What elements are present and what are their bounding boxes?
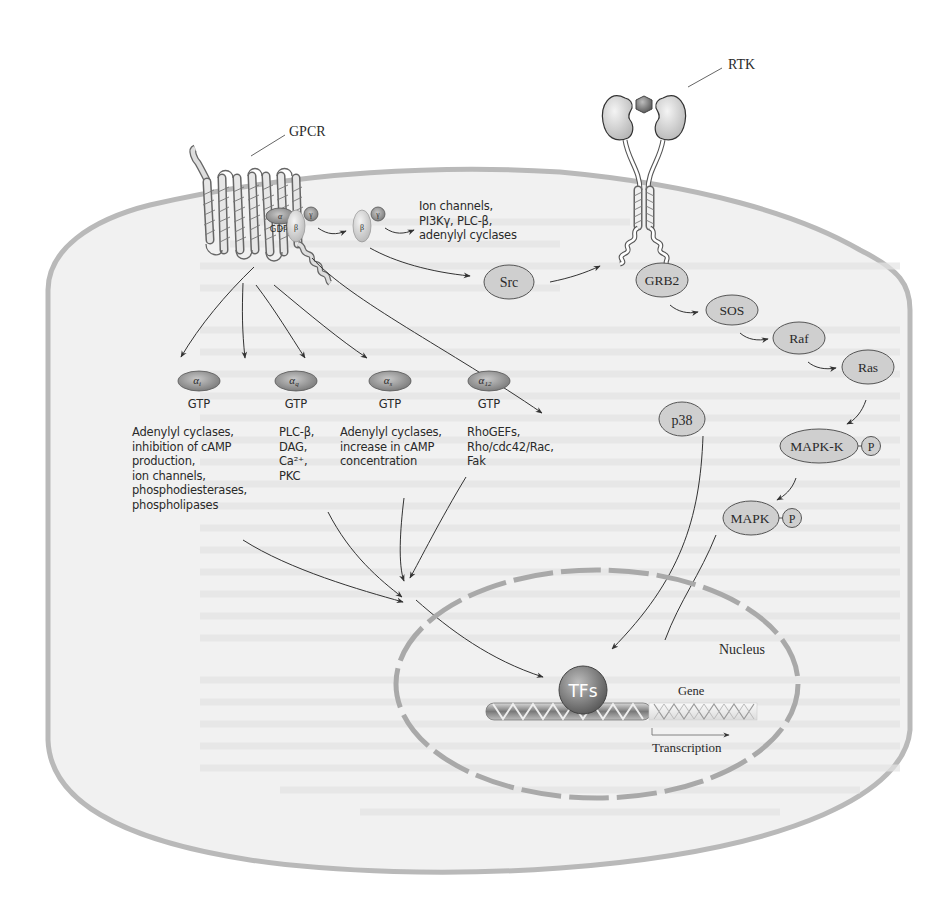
- raf-node: Raf: [773, 322, 825, 354]
- gpcr-label: GPCR: [289, 124, 326, 139]
- ras-node: Ras: [842, 350, 894, 384]
- svg-text:P: P: [789, 512, 796, 526]
- betagamma-effectors-label: Ion channels, PI3Kγ, PLC-β, adenylyl cyc…: [419, 199, 517, 243]
- svg-text:TFs: TFs: [567, 681, 597, 701]
- svg-text:MAPK: MAPK: [730, 511, 769, 526]
- signaling-diagram: GPCR α GDP β γ β γ Src αi GTP: [0, 0, 951, 898]
- svg-text:Raf: Raf: [789, 331, 809, 346]
- svg-text:Src: Src: [500, 275, 519, 290]
- svg-text:GTP: GTP: [478, 397, 501, 411]
- svg-text:GTP: GTP: [188, 397, 211, 411]
- svg-text:P: P: [868, 440, 875, 454]
- svg-text:GTP: GTP: [285, 397, 308, 411]
- gene-label: Gene: [678, 684, 705, 698]
- svg-text:MAPK-K: MAPK-K: [790, 439, 844, 454]
- nucleus-label: Nucleus: [719, 642, 765, 657]
- sos-node: SOS: [706, 295, 758, 325]
- alpha-i-effectors-label: Adenylyl cyclases, inhibition of cAMP pr…: [132, 425, 247, 512]
- alpha-q-effectors-label: PLC-β, DAG, Ca²⁺, PKC: [279, 425, 314, 483]
- gpcr-leader-line: [251, 135, 285, 156]
- svg-text:p38: p38: [672, 413, 693, 428]
- p38-node: p38: [659, 402, 705, 436]
- svg-text:γ: γ: [375, 210, 380, 219]
- rtk-leader-line: [688, 68, 722, 87]
- svg-text:γ: γ: [308, 210, 313, 219]
- svg-text:SOS: SOS: [720, 303, 745, 318]
- src-node: Src: [484, 265, 534, 299]
- svg-text:GRB2: GRB2: [645, 273, 680, 288]
- svg-text:Ras: Ras: [858, 360, 878, 375]
- grb2-node: GRB2: [636, 263, 688, 297]
- svg-text:GTP: GTP: [379, 397, 402, 411]
- dna-gene: [486, 703, 757, 720]
- svg-text:β: β: [294, 223, 298, 232]
- alpha-12-effectors-label: RhoGEFs, Rho/cdc42/Rac, Fak: [467, 425, 554, 469]
- rtk-label: RTK: [728, 57, 755, 72]
- transcription-label: Transcription: [652, 740, 722, 755]
- tfs-node: TFs: [559, 666, 607, 714]
- gdp-label: GDP: [270, 224, 288, 234]
- ligand-hexagon: [636, 96, 652, 113]
- alpha-s-effectors-label: Adenylyl cyclases, increase in cAMP conc…: [340, 425, 442, 469]
- svg-text:β: β: [360, 223, 364, 232]
